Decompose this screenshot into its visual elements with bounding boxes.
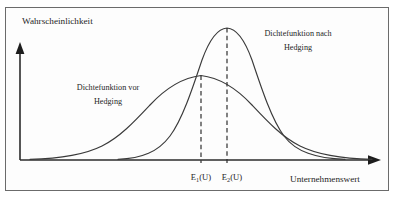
- tick-label-e2: E2(U): [222, 172, 242, 183]
- x-axis-label: Unternehmenswert: [290, 174, 360, 184]
- y-axis-label: Wahrscheinlichkeit: [22, 16, 93, 26]
- y-axis-arrow-icon: [16, 42, 25, 54]
- figure-root: Wahrscheinlichkeit Unternehmenswert Dich…: [0, 0, 396, 201]
- tick-label-e1-tail: (U): [199, 172, 211, 182]
- annotation-after-hedging-line1: Dichtefunktion nach: [264, 29, 331, 38]
- x-axis-arrow-icon: [368, 155, 381, 165]
- svg-text:E1(U): E1(U): [191, 172, 211, 183]
- tick-label-e1: E1(U): [191, 172, 211, 183]
- annotation-before-hedging-line1: Dichtefunktion vor: [77, 83, 140, 92]
- y-axis: [16, 42, 25, 160]
- annotation-before-hedging-line2: Hedging: [94, 97, 122, 106]
- tick-label-e2-tail: (U): [230, 172, 242, 182]
- density-chart: Wahrscheinlichkeit Unternehmenswert Dich…: [0, 0, 396, 201]
- annotation-after-hedging-line2: Hedging: [284, 43, 312, 52]
- svg-text:E2(U): E2(U): [222, 172, 242, 183]
